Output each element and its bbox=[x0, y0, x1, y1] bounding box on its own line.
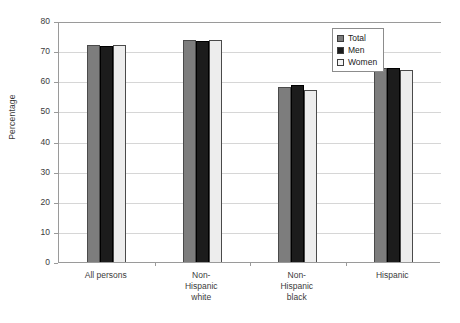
x-axis-category-label-line: Hispanic bbox=[242, 281, 352, 292]
legend-label-women: Women bbox=[348, 57, 377, 68]
y-axis-title: Percentage bbox=[7, 72, 17, 162]
y-axis-tick-label: 10 bbox=[24, 228, 50, 237]
x-axis-category-label-line: All persons bbox=[51, 270, 161, 281]
x-axis-category-label: Non-Hispanicblack bbox=[242, 270, 352, 303]
legend-swatch-women-icon bbox=[337, 59, 344, 66]
x-axis-category-label-line: Non- bbox=[146, 270, 256, 281]
x-axis-category-label: Non-Hispanicwhite bbox=[146, 270, 256, 303]
y-axis-tick-label: 20 bbox=[24, 198, 50, 207]
legend: Total Men Women bbox=[332, 28, 384, 72]
category-separator bbox=[155, 262, 156, 266]
x-axis-category-label-line: white bbox=[146, 292, 256, 303]
y-axis-tick-label: 40 bbox=[24, 138, 50, 147]
bar-group bbox=[59, 21, 155, 262]
bar-chart: Percentage 80706050403020100 All persons… bbox=[0, 0, 460, 323]
y-axis-tick-label: 70 bbox=[24, 47, 50, 56]
legend-item-men: Men bbox=[337, 44, 377, 56]
legend-label-total: Total bbox=[348, 33, 366, 44]
legend-label-men: Men bbox=[348, 45, 365, 56]
bar-total bbox=[374, 68, 387, 262]
x-axis-category-label-line: Hispanic bbox=[146, 281, 256, 292]
x-axis-category-label-line: Hispanic bbox=[337, 270, 447, 281]
category-separator bbox=[250, 262, 251, 266]
y-axis-tick-label: 80 bbox=[24, 17, 50, 26]
x-axis-category-label-line: black bbox=[242, 292, 352, 303]
bar-men bbox=[100, 46, 113, 262]
y-axis-tick-label: 30 bbox=[24, 168, 50, 177]
x-axis-category-label-line: Non- bbox=[242, 270, 352, 281]
category-separator bbox=[346, 262, 347, 266]
y-axis-tick-label: 50 bbox=[24, 107, 50, 116]
bar-women bbox=[209, 40, 222, 262]
bar-group bbox=[155, 21, 251, 262]
bar-total bbox=[87, 45, 100, 262]
y-axis-tick-label: 0 bbox=[24, 258, 50, 267]
legend-swatch-total-icon bbox=[337, 35, 344, 42]
bar-men bbox=[196, 41, 209, 262]
y-axis-tick-label: 60 bbox=[24, 77, 50, 86]
legend-item-women: Women bbox=[337, 56, 377, 68]
bar-women bbox=[113, 45, 126, 263]
bar-men bbox=[387, 68, 400, 262]
bar-men bbox=[291, 85, 304, 262]
y-axis-tick-mark bbox=[54, 263, 58, 264]
legend-item-total: Total bbox=[337, 32, 377, 44]
x-axis-category-label: All persons bbox=[51, 270, 161, 281]
bar-women bbox=[400, 70, 413, 262]
bar-women bbox=[304, 90, 317, 262]
bar-total bbox=[183, 40, 196, 262]
x-axis-category-label: Hispanic bbox=[337, 270, 447, 281]
bar-total bbox=[278, 87, 291, 262]
legend-swatch-men-icon bbox=[337, 47, 344, 54]
